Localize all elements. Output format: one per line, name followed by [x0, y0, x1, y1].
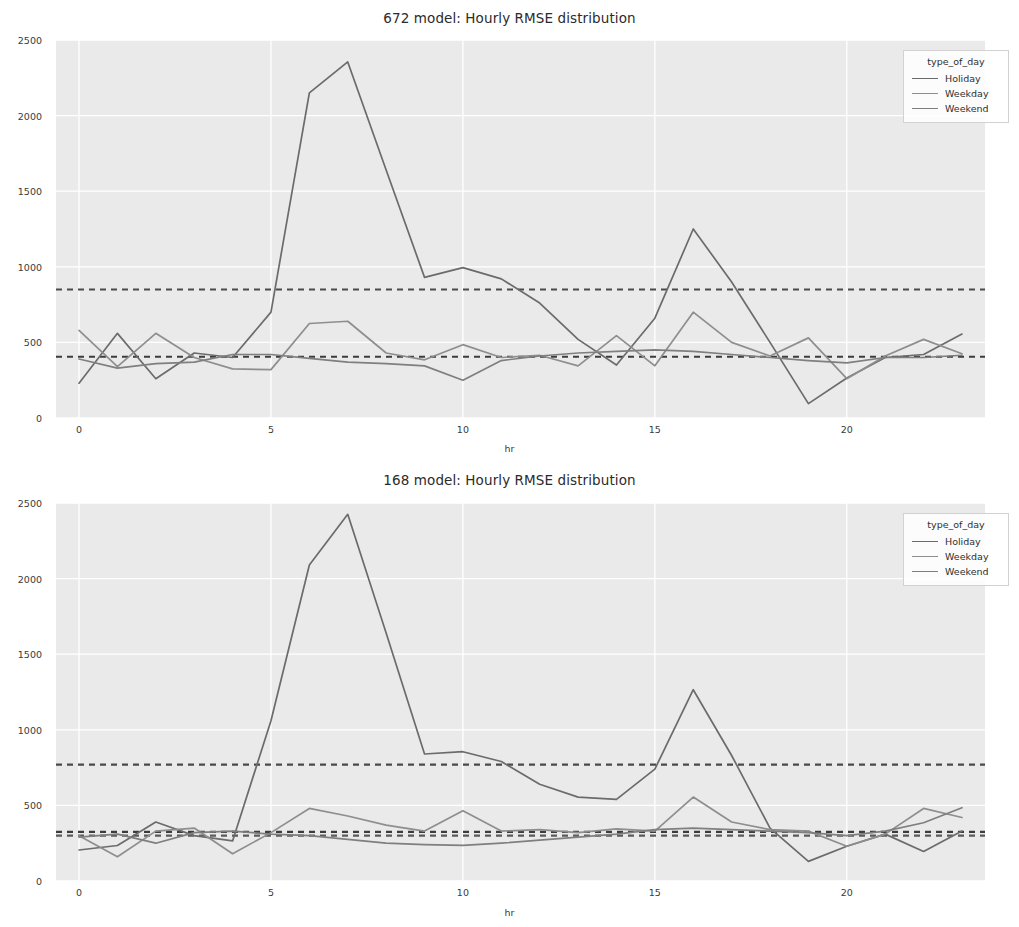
y-tick-label: 2000	[18, 573, 42, 584]
y-tick-label: 1000	[18, 261, 42, 272]
legend: type_of_day HolidayWeekdayWeekend	[903, 513, 1009, 586]
y-tick-label: 0	[36, 413, 42, 424]
x-axis-label: hr	[0, 443, 1019, 454]
x-tick-label: 5	[268, 887, 274, 898]
chart-panel-672: 672 model: Hourly RMSE distribution 0500…	[0, 0, 1019, 463]
y-tick-label: 1500	[18, 186, 42, 197]
x-axis-ticks: 05101520	[0, 887, 1019, 901]
legend-item-label: Weekday	[945, 88, 989, 99]
chart-title: 672 model: Hourly RMSE distribution	[0, 10, 1019, 26]
legend-title: type_of_day	[912, 519, 1000, 530]
plot-background	[56, 503, 985, 881]
legend-line-swatch-icon	[912, 108, 938, 109]
legend-line-swatch-icon	[912, 556, 938, 557]
legend-item-weekend[interactable]: Weekend	[912, 101, 1000, 116]
y-axis-ticks: 05001000150020002500	[0, 503, 50, 881]
legend-entries: HolidayWeekdayWeekend	[912, 71, 1000, 116]
legend-item-weekday[interactable]: Weekday	[912, 86, 1000, 101]
legend-title: type_of_day	[912, 56, 1000, 67]
legend-item-label: Holiday	[945, 73, 981, 84]
legend-line-swatch-icon	[912, 541, 938, 542]
y-tick-label: 2500	[18, 498, 42, 509]
legend: type_of_day HolidayWeekdayWeekend	[903, 50, 1009, 123]
legend-item-holiday[interactable]: Holiday	[912, 534, 1000, 549]
x-tick-label: 10	[457, 887, 469, 898]
x-tick-label: 20	[841, 424, 853, 435]
legend-item-holiday[interactable]: Holiday	[912, 71, 1000, 86]
legend-line-swatch-icon	[912, 78, 938, 79]
legend-item-weekday[interactable]: Weekday	[912, 549, 1000, 564]
legend-item-label: Weekend	[945, 566, 989, 577]
chart-title: 168 model: Hourly RMSE distribution	[0, 472, 1019, 488]
x-tick-label: 0	[76, 424, 82, 435]
x-axis-label: hr	[0, 907, 1019, 918]
plot-area	[56, 503, 985, 881]
y-tick-label: 2500	[18, 35, 42, 46]
y-tick-label: 0	[36, 876, 42, 887]
x-axis-ticks: 05101520	[0, 424, 1019, 438]
y-tick-label: 500	[24, 800, 42, 811]
x-tick-label: 15	[649, 887, 661, 898]
plot-svg	[56, 40, 985, 418]
legend-item-weekend[interactable]: Weekend	[912, 564, 1000, 579]
y-tick-label: 1000	[18, 724, 42, 735]
legend-item-label: Weekend	[945, 103, 989, 114]
legend-item-label: Weekday	[945, 551, 989, 562]
legend-entries: HolidayWeekdayWeekend	[912, 534, 1000, 579]
x-tick-label: 20	[841, 887, 853, 898]
x-tick-label: 10	[457, 424, 469, 435]
plot-svg	[56, 503, 985, 881]
y-tick-label: 1500	[18, 649, 42, 660]
plot-area	[56, 40, 985, 418]
x-tick-label: 0	[76, 887, 82, 898]
legend-item-label: Holiday	[945, 536, 981, 547]
chart-panel-168: 168 model: Hourly RMSE distribution 0500…	[0, 463, 1019, 927]
y-tick-label: 2000	[18, 110, 42, 121]
legend-line-swatch-icon	[912, 93, 938, 94]
y-axis-ticks: 05001000150020002500	[0, 40, 50, 418]
y-tick-label: 500	[24, 337, 42, 348]
x-tick-label: 15	[649, 424, 661, 435]
figure-page: 672 model: Hourly RMSE distribution 0500…	[0, 0, 1019, 927]
x-tick-label: 5	[268, 424, 274, 435]
legend-line-swatch-icon	[912, 571, 938, 572]
